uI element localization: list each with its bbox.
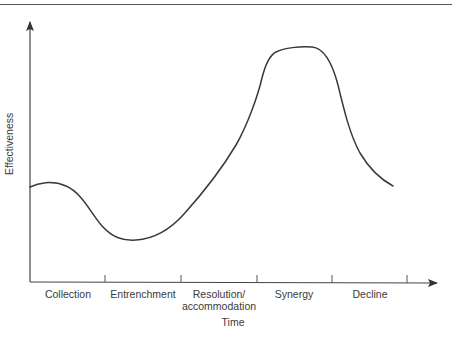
- stage-label-line-2: accommodation: [182, 300, 256, 312]
- stage-label-line: Synergy: [275, 288, 314, 300]
- stage-label-line: Decline: [352, 288, 387, 300]
- stage-label-collection: Collection: [45, 288, 91, 300]
- effectiveness-curve: [30, 47, 393, 240]
- stage-label-decline: Decline: [352, 288, 387, 300]
- stage-label-line: Collection: [45, 288, 91, 300]
- x-axis-title: Time: [222, 316, 245, 328]
- x-axis: [30, 282, 437, 283]
- stage-label-resolution: Resolution/ accommodation: [182, 288, 256, 312]
- y-axis-label: Effectiveness: [3, 113, 15, 175]
- stage-label-entrenchment: Entrenchment: [110, 288, 175, 300]
- stage-label-line: Resolution/: [182, 288, 256, 300]
- stage-label-synergy: Synergy: [275, 288, 314, 300]
- stage-label-line: Entrenchment: [110, 288, 175, 300]
